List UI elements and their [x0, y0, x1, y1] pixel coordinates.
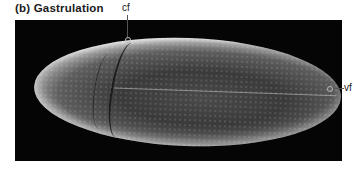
cf-label: cf — [122, 2, 130, 13]
embryo — [32, 33, 342, 152]
sem-micrograph-panel — [15, 20, 342, 161]
vf-pointer-marker — [327, 86, 333, 92]
cf-leader-line — [127, 15, 128, 38]
embryo-surface-texture — [32, 33, 342, 152]
vf-label: vf — [344, 82, 352, 93]
cf-pointer-marker — [125, 37, 131, 43]
figure-title: (b) Gastrulation — [15, 2, 104, 14]
